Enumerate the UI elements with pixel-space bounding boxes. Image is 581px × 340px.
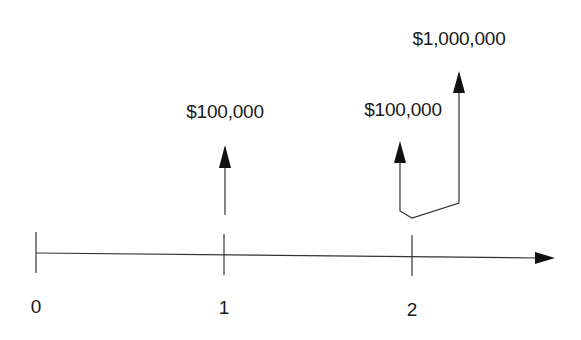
up-arrowhead-icon	[394, 141, 406, 163]
time-label-0: 0	[31, 297, 42, 317]
up-arrowhead-icon	[219, 145, 231, 168]
cashflow-label-t2-large: $1,000,000	[412, 29, 505, 49]
axis-arrowhead-icon	[535, 252, 555, 264]
timeline-diagram	[0, 0, 581, 340]
cashflow-label-t1: $100,000	[186, 102, 264, 122]
time-label-2: 2	[407, 300, 418, 320]
time-axis-line	[36, 253, 538, 258]
time-label-1: 1	[219, 298, 230, 318]
cashflow-label-t2-small: $100,000	[364, 100, 442, 120]
up-arrowhead-icon	[453, 71, 465, 93]
